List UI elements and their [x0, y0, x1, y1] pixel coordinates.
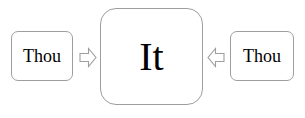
diagram-canvas: Thou It Thou: [0, 0, 305, 118]
node-thou-left[interactable]: Thou: [11, 31, 73, 81]
node-thou-right[interactable]: Thou: [230, 31, 294, 81]
node-thou-right-label: Thou: [243, 47, 281, 65]
node-thou-left-label: Thou: [23, 47, 61, 65]
node-it-center[interactable]: It: [100, 8, 203, 105]
block-arrow-left-icon: [207, 47, 225, 68]
node-it-center-label: It: [139, 37, 163, 77]
block-arrow-right-icon: [79, 47, 97, 68]
